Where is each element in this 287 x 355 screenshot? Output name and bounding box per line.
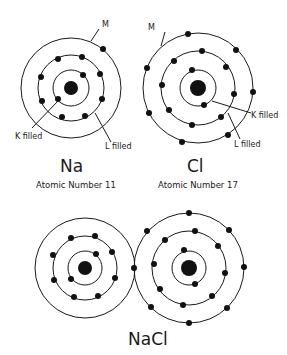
na-l-label: L filled xyxy=(105,143,131,151)
electron xyxy=(55,96,61,102)
electron xyxy=(201,102,207,108)
na-symbol: Na xyxy=(60,158,83,175)
na-atomic-number: Atomic Number 11 xyxy=(36,181,116,190)
nacl-label: NaCl xyxy=(128,331,168,348)
na-m-label: M xyxy=(102,21,109,29)
cl-k-label: K filled xyxy=(251,112,278,120)
electron xyxy=(159,82,165,88)
electron xyxy=(166,107,172,113)
cl-m-label: M xyxy=(148,24,155,32)
electron xyxy=(144,65,150,71)
na-m-leader xyxy=(91,29,99,41)
electron xyxy=(100,46,106,52)
na-nucleus xyxy=(64,81,78,95)
na-k-label: K filled xyxy=(15,133,42,141)
electron xyxy=(99,96,105,102)
electron xyxy=(225,132,231,138)
electron xyxy=(80,72,86,78)
electron xyxy=(185,31,191,37)
nacl-na-nucleus xyxy=(78,261,92,275)
electron xyxy=(59,114,65,120)
electron xyxy=(199,48,205,54)
electron xyxy=(189,122,195,128)
electron xyxy=(223,64,229,70)
electron xyxy=(171,58,177,64)
electron xyxy=(233,47,239,53)
electron xyxy=(189,67,195,73)
electron xyxy=(179,139,185,145)
electron xyxy=(218,114,224,120)
na-l-leader xyxy=(95,113,111,142)
cl-l-label: L filled xyxy=(234,141,260,149)
electron xyxy=(97,71,103,77)
atom-diagram xyxy=(0,0,287,355)
electron xyxy=(231,91,237,97)
electron xyxy=(38,74,44,80)
electron xyxy=(250,89,256,95)
nacl-cl-nucleus xyxy=(181,260,197,276)
cl-symbol: Cl xyxy=(187,158,204,175)
electron xyxy=(146,110,152,116)
cl-atomic-number: Atomic Number 17 xyxy=(158,181,238,190)
na-k-leader xyxy=(32,101,58,128)
electron xyxy=(55,56,61,62)
electron xyxy=(79,54,85,60)
electron xyxy=(39,98,45,104)
electron xyxy=(82,113,88,119)
cl-nucleus xyxy=(190,80,206,96)
